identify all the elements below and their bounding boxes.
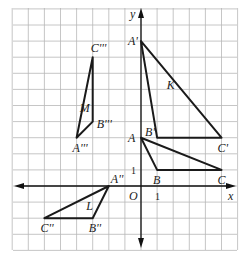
vertex-label: C'' [40,221,54,235]
vertex-label: B''' [97,117,112,131]
x-axis-arrow-left [14,183,24,189]
grid [12,8,237,250]
triangle-k: A'B'C'K [127,34,229,155]
vertex-label: C''' [91,41,107,55]
triangle-name-label: M [79,101,91,115]
origin-label: O [129,189,138,203]
coordinate-plane-figure: x y O 1 1 ABCA'B'C'KA''B''C''LA'''B'''C'… [0,0,240,256]
vertex-label: A''' [72,141,88,155]
vertex-label: C' [218,141,229,155]
vertex-label: B'' [89,221,102,235]
vertex-label: B' [145,125,155,139]
y-axis-arrow-up [138,8,144,18]
triangle-outline [77,57,93,138]
triangles: ABCA'B'C'KA''B''C''LA'''B'''C'''M [40,34,228,235]
vertex-label: B [153,173,161,187]
x-axis-label: x [227,189,234,203]
triangle-abc: ABC [127,131,227,187]
unit-tick-label-x: 1 [155,191,160,202]
vertex-label: A'' [110,172,124,186]
triangle-l: A''B''C''L [40,172,123,235]
vertex-label: C [218,173,227,187]
triangle-name-label: K [166,78,176,92]
vertex-label: A' [127,34,138,48]
y-axis-label: y [129,7,136,21]
unit-tick-label-y: 1 [131,165,136,176]
y-axis-arrow-down [138,238,144,248]
triangle-name-label: L [85,199,93,213]
vertex-label: A [127,131,136,145]
